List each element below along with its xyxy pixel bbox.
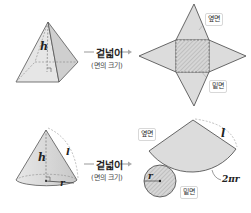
diagram-canvas [0,0,251,213]
cone-slant-label: l [66,146,70,157]
cone-radius-label: r [60,178,65,188]
cone-net-lateral-tag: 옆면 [138,128,156,141]
cone-net-base-tag: 밑면 [180,186,198,199]
cone-surface-area-subtitle: (면의 크기) [91,172,123,182]
cone-net-arc-label: 2πr [222,174,240,184]
cone-net-slant-label: l [221,127,225,140]
cone-surface-area-label: 겉넓이 [96,157,123,172]
square-pyramid-net [139,4,246,106]
cone-height-label: h [38,151,46,164]
pyramid-surface-area-subtitle: (면의 크기) [91,60,123,70]
pyramid-height-label: h [40,40,48,53]
pyramid-net-base-tag: 밑면 [209,80,227,93]
pyramid-net-lateral-tag: 옆면 [205,13,223,26]
pyramid-surface-area-label: 겉넓이 [96,45,123,60]
cone-net-radius-label: r [148,171,153,181]
